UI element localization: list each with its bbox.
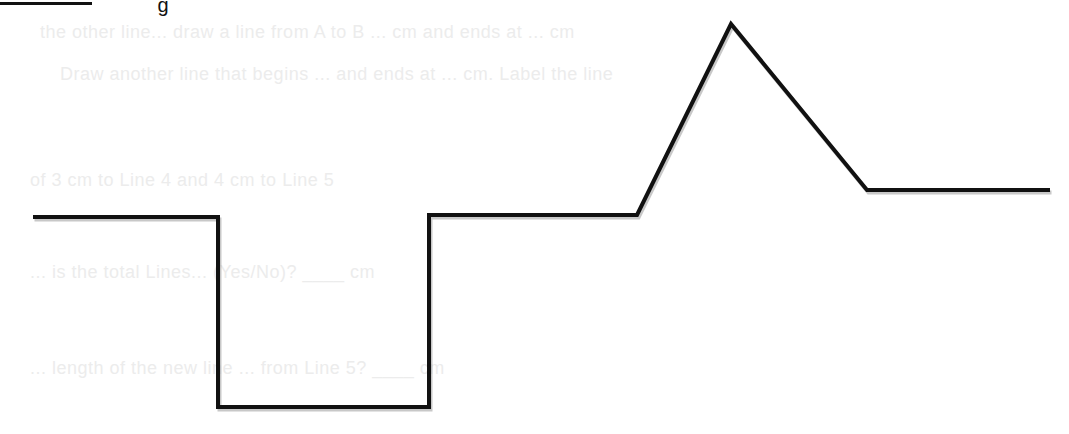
line-path-diagram [0,0,1069,434]
line-path [33,24,1050,407]
